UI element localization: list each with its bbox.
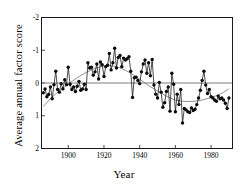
data-point-marker [76, 85, 79, 88]
data-point-marker [227, 96, 230, 99]
data-point-marker [158, 81, 161, 84]
data-point-marker [163, 101, 166, 104]
data-point-marker [129, 70, 132, 73]
data-point-marker [149, 74, 152, 77]
data-point-marker [225, 107, 228, 110]
data-point-marker [138, 82, 141, 85]
data-point-marker [47, 93, 50, 96]
data-point-marker [208, 88, 211, 91]
data-point-marker [174, 110, 177, 113]
x-tick-label: 1920 [96, 151, 111, 160]
data-point-marker [95, 62, 98, 65]
data-point-marker [222, 98, 225, 101]
data-point-marker [152, 83, 155, 86]
y-tick-label: 2 [35, 144, 39, 153]
data-point-marker [202, 70, 205, 73]
data-point-marker [102, 75, 105, 78]
y-tick-label: 1 [35, 111, 39, 120]
data-point-marker [52, 83, 55, 86]
data-point-marker [111, 61, 114, 64]
data-point-marker [68, 83, 71, 86]
data-point-marker [150, 58, 153, 61]
data-point-marker [106, 64, 109, 67]
data-point-marker [113, 47, 116, 50]
data-point-marker [142, 62, 145, 65]
data-point-marker [77, 80, 80, 83]
data-point-marker [100, 63, 103, 66]
data-point-marker [86, 61, 89, 64]
data-point-marker [161, 106, 164, 109]
data-point-marker [81, 87, 84, 90]
y-tick-label: 0 [35, 79, 39, 88]
data-point-marker [109, 68, 112, 71]
data-point-marker [167, 85, 170, 88]
data-point-marker [156, 96, 159, 99]
data-point-marker [179, 88, 182, 91]
data-point-marker [42, 91, 45, 94]
data-point-marker [61, 87, 64, 90]
data-point-marker [65, 83, 68, 86]
chart-plot-area: 19001920194019601980 -2-1012 [0, 0, 248, 189]
data-point-marker [127, 55, 130, 58]
data-point-marker [200, 79, 203, 82]
data-point-marker [58, 90, 61, 93]
data-point-marker [43, 87, 46, 90]
data-point-marker [177, 103, 180, 106]
data-point-marker [143, 58, 146, 61]
data-point-marker [131, 96, 134, 99]
data-point-marker [74, 90, 77, 93]
factor-score-data-points [42, 47, 231, 125]
x-tick-label: 1900 [61, 151, 76, 160]
data-point-marker [193, 108, 196, 111]
y-tick-label: -1 [33, 46, 39, 55]
data-point-marker [136, 79, 139, 82]
data-point-marker [215, 100, 218, 103]
data-point-marker [224, 102, 227, 105]
x-axis-tick-labels: 19001920194019601980 [61, 151, 219, 160]
data-point-marker [159, 90, 162, 93]
data-point-marker [165, 90, 168, 93]
data-point-marker [108, 52, 111, 55]
data-point-marker [90, 66, 93, 69]
data-point-marker [199, 89, 202, 92]
data-point-marker [147, 61, 150, 64]
data-point-marker [51, 97, 54, 100]
x-axis-title: Year [0, 168, 248, 180]
x-tick-label: 1940 [132, 151, 147, 160]
y-axis-title: Average annual factor score [13, 6, 24, 166]
data-point-marker [145, 71, 148, 74]
data-point-marker [97, 77, 100, 80]
data-point-marker [63, 78, 66, 81]
data-point-marker [118, 54, 121, 57]
data-point-marker [49, 85, 52, 88]
data-point-marker [204, 83, 207, 86]
x-tick-label: 1960 [168, 151, 183, 160]
data-point-marker [120, 65, 123, 68]
data-point-marker [195, 103, 198, 106]
data-point-marker [92, 73, 95, 76]
x-tick-label: 1980 [204, 151, 219, 160]
data-point-marker [154, 92, 157, 95]
data-point-marker [67, 66, 70, 69]
data-point-marker [172, 83, 175, 86]
data-point-marker [93, 70, 96, 73]
data-point-marker [54, 70, 57, 73]
data-point-marker [115, 66, 118, 69]
data-point-marker [134, 75, 137, 78]
data-point-marker [181, 121, 184, 124]
y-tick-label: -2 [33, 13, 39, 22]
data-point-marker [72, 85, 75, 88]
data-point-marker [83, 83, 86, 86]
chart-figure: 19001920194019601980 -2-1012 Year Averag… [0, 0, 248, 189]
data-point-marker [188, 111, 191, 114]
data-point-marker [175, 92, 178, 95]
data-point-marker [84, 88, 87, 91]
y-axis-tick-labels: -2-1012 [33, 13, 40, 153]
data-point-marker [206, 92, 209, 95]
data-point-marker [140, 70, 143, 73]
data-point-marker [59, 82, 62, 85]
data-point-marker [168, 109, 171, 112]
data-point-marker [197, 96, 200, 99]
data-point-marker [170, 71, 173, 74]
